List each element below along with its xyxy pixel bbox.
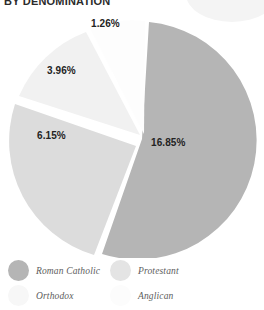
legend-item-roman-catholic[interactable]: Roman Catholic xyxy=(8,260,100,281)
legend-item-orthodox[interactable]: Orthodox xyxy=(8,285,74,306)
legend-label: Orthodox xyxy=(36,291,74,301)
legend-item-protestant[interactable]: Protestant xyxy=(110,260,179,281)
legend-item-anglican[interactable]: Anglican xyxy=(110,285,174,306)
pie-label-protestant: 3.96% xyxy=(47,65,76,76)
legend-label: Roman Catholic xyxy=(36,266,100,276)
pie-label-orthodox: 6.15% xyxy=(37,130,66,141)
legend-swatch-icon xyxy=(110,285,131,306)
pie-label-anglican: 1.26% xyxy=(91,18,120,29)
legend-swatch-icon xyxy=(110,260,131,281)
legend-label: Protestant xyxy=(138,266,179,276)
pie-label-roman-catholic: 16.85% xyxy=(151,137,186,148)
chart-legend: Roman Catholic Protestant Orthodox Angli… xyxy=(0,258,264,310)
legend-label: Anglican xyxy=(138,291,174,301)
chart-title: BY DENOMINATION xyxy=(4,0,111,7)
legend-swatch-icon xyxy=(8,260,29,281)
legend-swatch-icon xyxy=(8,285,29,306)
